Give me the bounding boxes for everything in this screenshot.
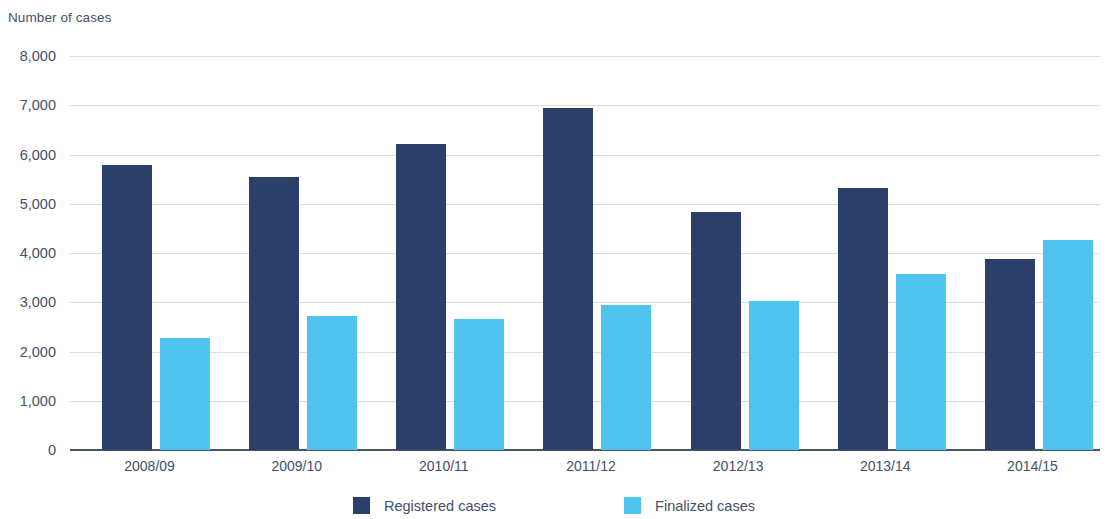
bar-group [539,56,658,450]
y-axis-title: Number of cases [8,10,112,25]
bar-group [687,56,806,450]
bar-finalized [454,319,504,450]
bar-chart-figure: Number of cases 8,0007,0006,0005,0004,00… [0,0,1108,519]
bar-registered [691,212,741,450]
y-axis-tick-label: 5,000 [0,196,56,212]
chart-legend: Registered casesFinalized cases [0,492,1108,519]
x-axis-tick-label: 2008/09 [80,458,220,474]
x-axis-tick-label: 2013/14 [815,458,955,474]
bar-finalized [1043,240,1093,450]
bars-layer [70,56,1100,450]
bar-group [392,56,511,450]
x-axis-tick-label: 2011/12 [521,458,661,474]
plot-area: 8,0007,0006,0005,0004,0003,0002,0001,000… [70,56,1100,450]
y-axis-tick-label: 6,000 [0,147,56,163]
bar-registered [249,177,299,450]
y-axis-tick-label: 2,000 [0,344,56,360]
legend-swatch-icon [353,497,370,514]
bar-group [981,56,1100,450]
bar-registered [985,259,1035,450]
bar-group [834,56,953,450]
bar-group [98,56,217,450]
y-axis-tick-label: 0 [0,442,56,458]
bar-registered [396,144,446,450]
x-axis-tick-label: 2014/15 [962,458,1102,474]
x-axis-tick-label: 2010/11 [374,458,514,474]
y-axis-tick-label: 4,000 [0,245,56,261]
y-axis-tick-label: 1,000 [0,393,56,409]
bar-registered [102,165,152,450]
x-axis-tick-label: 2009/10 [227,458,367,474]
bar-finalized [896,274,946,450]
bar-finalized [601,305,651,450]
bar-finalized [307,316,357,450]
legend-label: Registered cases [384,498,496,514]
legend-item: Registered cases [353,497,496,514]
bar-registered [543,108,593,450]
bar-group [245,56,364,450]
y-axis-tick-label: 8,000 [0,48,56,64]
legend-swatch-icon [624,497,641,514]
bar-finalized [749,301,799,450]
legend-item: Finalized cases [624,497,755,514]
bar-registered [838,188,888,450]
x-axis-tick-label: 2012/13 [668,458,808,474]
x-axis-ticks: 2008/092009/102010/112011/122012/132013/… [70,458,1100,482]
y-axis-tick-label: 7,000 [0,97,56,113]
y-axis-tick-label: 3,000 [0,294,56,310]
legend-label: Finalized cases [655,498,755,514]
bar-finalized [160,338,210,450]
